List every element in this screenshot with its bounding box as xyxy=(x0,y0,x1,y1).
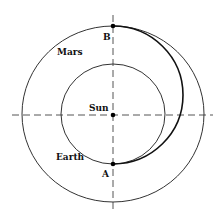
transfer-orbit xyxy=(113,26,183,164)
label-earth: Earth xyxy=(56,152,85,162)
label-mars: Mars xyxy=(57,47,83,57)
point-b-marker xyxy=(111,24,116,29)
point-a-marker xyxy=(111,162,116,167)
label-b: B xyxy=(103,32,111,42)
label-sun: Sun xyxy=(89,103,109,113)
orbit-diagram: B Mars Sun Earth A xyxy=(0,0,223,224)
sun-marker xyxy=(111,113,116,118)
label-a: A xyxy=(101,169,110,179)
